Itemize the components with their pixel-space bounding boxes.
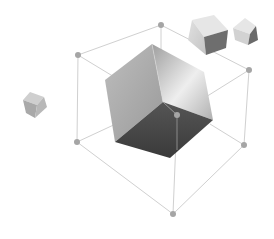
small-cube-top-middle: [188, 15, 228, 55]
node-top-back: [158, 22, 164, 28]
node-bottom-front: [170, 211, 176, 217]
small-cube-top-right: [233, 18, 258, 45]
node-top-right: [246, 67, 252, 73]
small-cube-left: [23, 92, 47, 118]
large-cube: [105, 44, 213, 158]
node-bottom-left: [74, 139, 80, 145]
cube-illustration: [0, 0, 274, 239]
node-center: [174, 112, 180, 118]
node-top-left: [75, 52, 81, 58]
node-bottom-right: [241, 142, 247, 148]
